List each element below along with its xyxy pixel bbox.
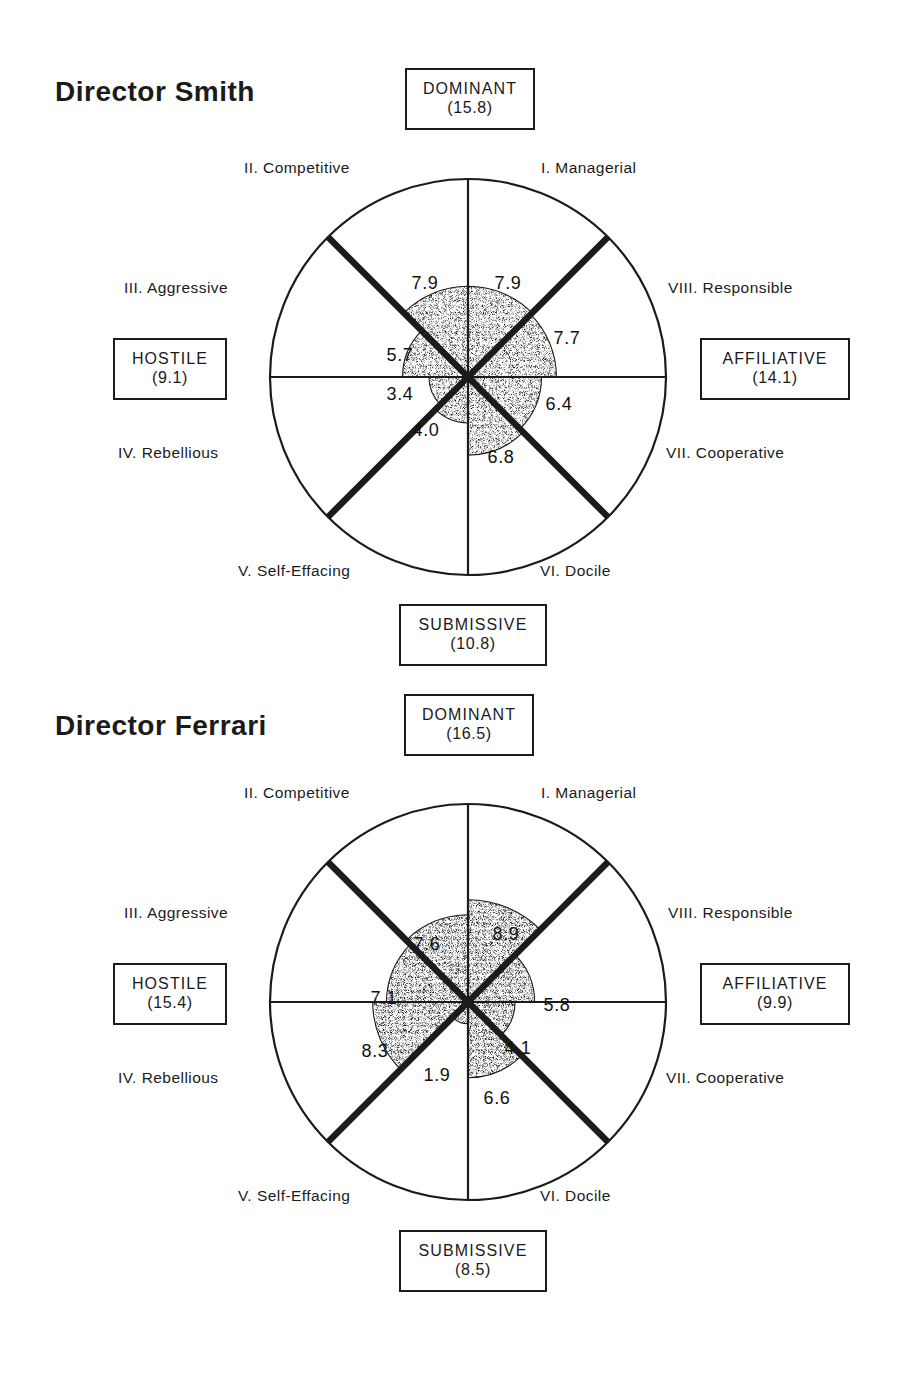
octant-label-III: III. Aggressive	[124, 904, 228, 922]
wheel-graphic	[268, 177, 668, 577]
chart-title: Director Ferrari	[55, 710, 267, 742]
pole-label: HOSTILE	[132, 350, 208, 369]
pole-label: DOMINANT	[423, 80, 517, 99]
wheel-graphic	[268, 802, 668, 1202]
octant-label-III: III. Aggressive	[124, 279, 228, 297]
pole-box-submissive: SUBMISSIVE (8.5)	[399, 1230, 547, 1292]
segment-value-VI: 6.8	[488, 447, 515, 468]
pole-label: HOSTILE	[132, 975, 208, 994]
octant-label-VII: VII. Cooperative	[666, 1069, 784, 1087]
pole-value: (9.9)	[757, 994, 793, 1013]
octant-label-I: I. Managerial	[541, 159, 636, 177]
octant-label-IV: IV. Rebellious	[118, 1069, 219, 1087]
pole-box-submissive: SUBMISSIVE (10.8)	[399, 604, 547, 666]
octant-label-II: II. Competitive	[244, 159, 350, 177]
octant-label-I: I. Managerial	[541, 784, 636, 802]
segment-value-VIII: 5.8	[544, 995, 571, 1016]
pole-label: AFFILIATIVE	[722, 350, 827, 369]
octant-label-II: II. Competitive	[244, 784, 350, 802]
segment-value-II: 7.9	[412, 273, 439, 294]
pole-value: (16.5)	[446, 725, 491, 744]
octant-label-VIII: VIII. Responsible	[668, 904, 793, 922]
segment-value-VII: 4.1	[505, 1038, 532, 1059]
pole-value: (15.8)	[447, 99, 492, 118]
segment-value-I: 8.9	[493, 924, 520, 945]
segment-value-IV: 3.4	[387, 384, 414, 405]
segment-value-VII: 6.4	[546, 394, 573, 415]
pole-label: DOMINANT	[422, 706, 516, 725]
pole-value: (15.4)	[147, 994, 192, 1013]
segment-value-VIII: 7.7	[554, 328, 581, 349]
segment-value-I: 7.9	[495, 273, 522, 294]
pole-label: SUBMISSIVE	[419, 616, 528, 635]
pole-value: (10.8)	[450, 635, 495, 654]
octant-label-VIII: VIII. Responsible	[668, 279, 793, 297]
pole-box-affiliative: AFFILIATIVE (14.1)	[700, 338, 850, 400]
segment-value-III: 5.7	[387, 345, 414, 366]
pole-value: (8.5)	[455, 1261, 491, 1280]
circumplex-chart-ferrari: Director Ferrari DOMINANT (16.5) AFFILIA…	[0, 691, 903, 1382]
pole-value: (14.1)	[752, 369, 797, 388]
pole-value: (9.1)	[152, 369, 188, 388]
pole-label: SUBMISSIVE	[419, 1242, 528, 1261]
segment-value-III: 7.1	[371, 988, 398, 1009]
pole-box-hostile: HOSTILE (15.4)	[113, 963, 227, 1025]
pole-box-dominant: DOMINANT (16.5)	[404, 694, 534, 756]
octant-label-IV: IV. Rebellious	[118, 444, 219, 462]
segment-value-V: 1.9	[424, 1065, 451, 1086]
segment-value-IV: 8.3	[362, 1041, 389, 1062]
pole-box-hostile: HOSTILE (9.1)	[113, 338, 227, 400]
segment-value-V: 4.0	[413, 420, 440, 441]
pole-label: AFFILIATIVE	[722, 975, 827, 994]
pole-box-dominant: DOMINANT (15.8)	[405, 68, 535, 130]
circumplex-chart-smith: Director Smith DOMINANT (15.8) AFFILIATI…	[0, 0, 903, 691]
chart-title: Director Smith	[55, 76, 255, 108]
pole-box-affiliative: AFFILIATIVE (9.9)	[700, 963, 850, 1025]
segment-value-VI: 6.6	[484, 1088, 511, 1109]
octant-label-VII: VII. Cooperative	[666, 444, 784, 462]
segment-value-II: 7.6	[414, 934, 441, 955]
